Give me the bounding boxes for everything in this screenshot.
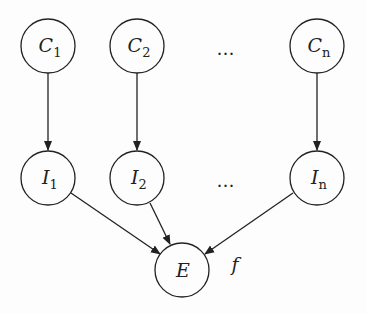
node-cn-label: Cn: [308, 34, 331, 60]
node-c2-label: C2: [128, 34, 151, 60]
ellipsis-top: …: [217, 38, 238, 59]
bayesian-network-diagram: C1 C2 Cn I1 I2 In E … … f: [0, 0, 367, 314]
node-i2-label: I2: [131, 166, 147, 192]
node-e-label: E: [176, 259, 190, 281]
function-label-f: f: [231, 253, 238, 275]
node-i1-label: I1: [42, 166, 58, 192]
ellipsis-middle: …: [217, 170, 238, 191]
edge-in-e: [205, 193, 293, 254]
node-in-label: In: [311, 166, 327, 192]
edge-i2-e: [150, 203, 170, 244]
node-c1-label: C1: [39, 34, 62, 60]
edge-i1-e: [71, 193, 160, 254]
